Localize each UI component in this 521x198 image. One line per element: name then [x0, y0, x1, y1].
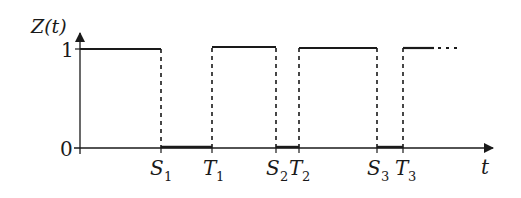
y-tick-label-0: 0 [60, 137, 73, 161]
svg-text:S: S [150, 156, 164, 180]
svg-text:1: 1 [216, 169, 224, 184]
x-tick-marks [161, 148, 403, 153]
step-function-diagram: Z(t) t 1 0 [0, 0, 521, 198]
y-axis-label: Z(t) [30, 15, 67, 37]
svg-text:2: 2 [302, 169, 310, 184]
high-segments [80, 47, 434, 49]
svg-text:2: 2 [280, 169, 288, 184]
x-axis-label: t [481, 155, 490, 179]
svg-text:3: 3 [408, 169, 416, 184]
x-tick-label-T1: T 1 [203, 156, 224, 184]
svg-text:1: 1 [164, 169, 172, 184]
x-tick-label-S3: S 3 [367, 156, 389, 184]
svg-text:S: S [367, 156, 381, 180]
transition-lines [161, 48, 403, 148]
svg-text:S: S [266, 156, 280, 180]
y-tick-label-1: 1 [61, 38, 74, 62]
x-tick-label-T2: T 2 [289, 156, 310, 184]
x-tick-label-S1: S 1 [150, 156, 172, 184]
svg-text:3: 3 [381, 169, 389, 184]
x-tick-label-T3: T 3 [395, 156, 416, 184]
diagram-canvas: Z(t) t 1 0 [0, 0, 521, 198]
x-tick-label-S2: S 2 [266, 156, 288, 184]
